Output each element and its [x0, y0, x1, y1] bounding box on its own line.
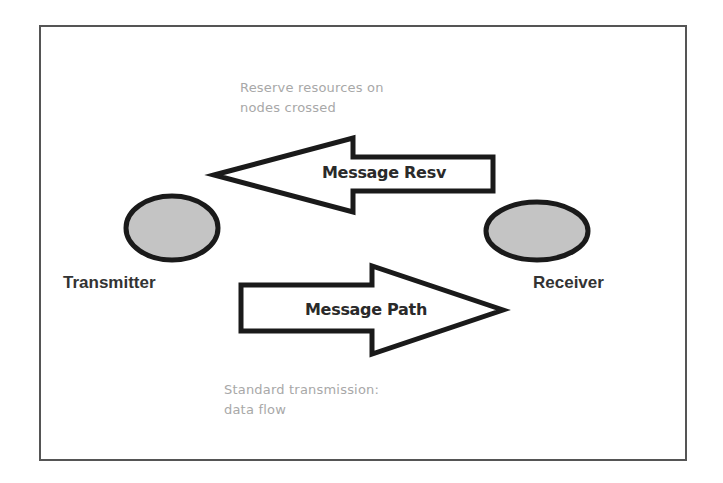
message-resv-note-line-1: Reserve resources on: [240, 78, 384, 98]
message-path-note: Standard transmission: data flow: [224, 380, 379, 420]
message-resv-note: Reserve resources on nodes crossed: [240, 78, 384, 118]
message-path-label: Message Path: [305, 300, 427, 319]
message-resv-note-line-2: nodes crossed: [240, 98, 384, 118]
receiver-label: Receiver: [533, 273, 604, 293]
message-path-note-line-1: Standard transmission:: [224, 380, 379, 400]
transmitter-label: Transmitter: [63, 273, 156, 293]
transmitter-node: [126, 196, 218, 260]
message-path-note-line-2: data flow: [224, 400, 379, 420]
message-resv-label: Message Resv: [322, 163, 446, 182]
receiver-node: [486, 202, 588, 260]
